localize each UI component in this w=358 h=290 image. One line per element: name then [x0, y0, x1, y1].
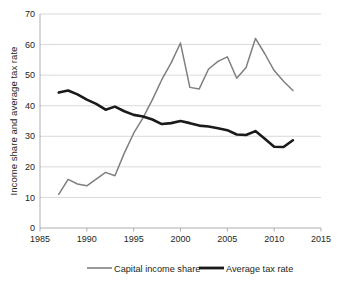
x-tick-label: 1985: [30, 234, 50, 244]
y-tick-label: 0: [30, 223, 35, 233]
y-tick-label: 50: [25, 70, 35, 80]
line-chart: 010203040506070 198519901995200020052010…: [0, 0, 358, 290]
x-tick-label: 2010: [264, 234, 284, 244]
y-tick-label: 40: [25, 101, 35, 111]
y-axis-title: Income share and average tax rate: [8, 47, 19, 196]
y-axis-tick-labels: 010203040506070: [25, 9, 35, 233]
legend: Capital income share Average tax rate: [87, 264, 293, 274]
y-tick-label: 30: [25, 131, 35, 141]
x-tick-label: 1990: [77, 234, 97, 244]
chart-container: 010203040506070 198519901995200020052010…: [0, 0, 358, 290]
y-tick-label: 60: [25, 40, 35, 50]
y-tick-label: 10: [25, 193, 35, 203]
gridlines-group: [40, 14, 321, 197]
y-tick-label: 70: [25, 9, 35, 19]
series-line-average-tax-rate: [59, 90, 293, 147]
y-tick-label: 20: [25, 162, 35, 172]
x-tick-label: 2005: [217, 234, 237, 244]
x-tick-label: 1995: [124, 234, 144, 244]
legend-label-average-tax-rate: Average tax rate: [226, 264, 293, 274]
x-tick-label: 2000: [170, 234, 190, 244]
series-line-capital-income-share: [59, 38, 293, 194]
x-tick-label: 2015: [311, 234, 331, 244]
x-axis-tick-marks: [40, 228, 321, 232]
legend-label-capital-income-share: Capital income share: [114, 264, 200, 274]
x-axis-tick-labels: 1985199019952000200520102015: [30, 234, 331, 244]
